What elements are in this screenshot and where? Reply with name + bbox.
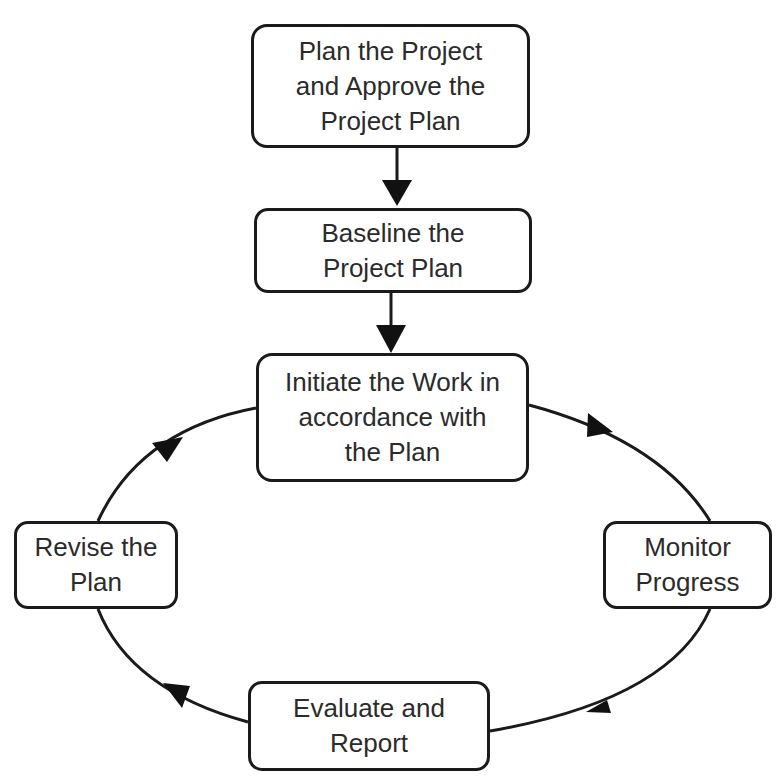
edge-initiate-to-monitor [529, 405, 710, 521]
node-baseline-the-project-plan: Baseline the Project Plan [254, 208, 532, 293]
node-label: Baseline the Project Plan [321, 216, 464, 286]
node-revise-the-plan: Revise the Plan [14, 521, 178, 609]
edge-revise-to-initiate [98, 408, 256, 521]
node-label: Monitor Progress [635, 530, 739, 600]
arrowhead-down-icon [376, 325, 406, 353]
node-label: Revise the Plan [35, 530, 158, 600]
node-plan-the-project: Plan the Project and Approve the Project… [251, 24, 530, 148]
edge-monitor-to-evaluate [490, 609, 710, 731]
edge-evaluate-to-revise [98, 609, 248, 722]
node-label: Evaluate and Report [293, 691, 445, 761]
arrowhead-up-left-icon [163, 683, 190, 708]
arrowhead-down-icon [382, 180, 412, 206]
node-initiate-the-work: Initiate the Work in accordance with the… [256, 353, 529, 482]
node-evaluate-and-report: Evaluate and Report [248, 681, 490, 771]
project-control-cycle-diagram: Plan the Project and Approve the Project… [0, 0, 781, 779]
node-label: Initiate the Work in accordance with the… [285, 365, 500, 470]
node-label: Plan the Project and Approve the Project… [296, 34, 485, 139]
node-monitor-progress: Monitor Progress [603, 521, 772, 609]
